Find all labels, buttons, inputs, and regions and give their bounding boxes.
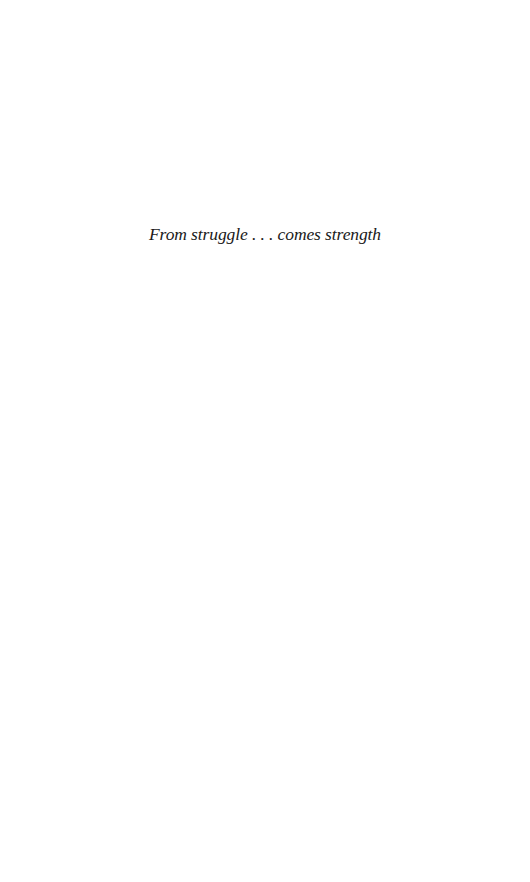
document-page: From struggle . . . comes strength — [0, 0, 530, 882]
epigraph-text: From struggle . . . comes strength — [0, 223, 530, 245]
